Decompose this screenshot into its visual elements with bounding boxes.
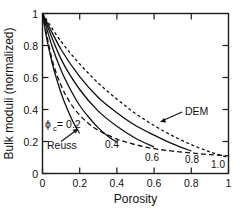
y-axis-title: Bulk moduli (normalized) — [2, 27, 16, 159]
dem-arrow-head — [160, 118, 166, 123]
reuss-annotation: Reuss — [47, 129, 79, 151]
y-tick-label-1: 0.2 — [23, 136, 38, 148]
phi-symbol: ϕ — [45, 118, 51, 130]
curve-end-label-0-6: 0.6 — [145, 152, 159, 163]
dem-arrow-line — [163, 112, 182, 121]
curve-end-label-1-0: 1.0 — [211, 159, 225, 170]
curve-dem — [43, 14, 229, 158]
x-tick-label-1: 0.2 — [72, 177, 87, 189]
figure-container: 0 0.2 0.4 0.6 0.8 1 0 0.2 0.4 0.6 0.8 1 … — [0, 0, 245, 211]
x-tick-label-0: 0 — [40, 177, 46, 189]
x-tick-label-4: 0.8 — [184, 177, 199, 189]
bulk-moduli-porosity-chart: 0 0.2 0.4 0.6 0.8 1 0 0.2 0.4 0.6 0.8 1 … — [0, 0, 245, 211]
y-tick-label-4: 0.8 — [23, 40, 38, 52]
curve-end-label-0-8: 0.8 — [185, 154, 199, 165]
x-axis-title: Porosity — [114, 192, 157, 206]
dem-annotation: DEM — [160, 105, 208, 123]
dem-label: DEM — [185, 105, 208, 117]
curve-phi-c-0-8 — [43, 14, 192, 152]
x-tick-label-2: 0.4 — [110, 177, 125, 189]
y-tick-label-5: 1 — [32, 8, 38, 20]
y-tick-label-2: 0.4 — [23, 104, 38, 116]
x-tick-label-5: 1 — [226, 177, 232, 189]
x-tick-label-3: 0.6 — [147, 177, 162, 189]
curves-group — [43, 14, 229, 158]
y-tick-label-3: 0.6 — [23, 72, 38, 84]
phi-c-value: = 0.2 — [57, 118, 81, 130]
y-tick-label-0: 0 — [32, 168, 38, 180]
curve-end-label-0-4: 0.4 — [105, 139, 119, 150]
